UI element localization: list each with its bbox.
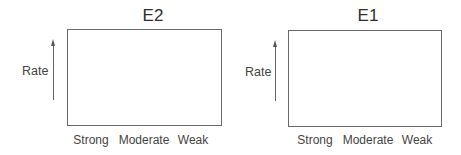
plot-frame <box>288 30 442 127</box>
up-arrow-icon <box>275 46 276 101</box>
y-axis-label: Rate <box>245 65 271 79</box>
x-label-moderate: Moderate <box>343 133 394 147</box>
x-label-moderate: Moderate <box>119 133 170 147</box>
x-label-strong: Strong <box>297 133 332 147</box>
x-label-weak: Weak <box>402 133 432 147</box>
panel-e1: E1 Rate Strong Moderate Weak <box>230 0 460 155</box>
panel-e2: E2 Rate Strong Moderate Weak <box>0 0 230 155</box>
x-label-weak: Weak <box>178 133 208 147</box>
panel-title: E1 <box>358 6 379 26</box>
panel-title: E2 <box>143 6 164 26</box>
up-arrow-icon <box>53 45 54 100</box>
x-label-strong: Strong <box>73 133 108 147</box>
y-axis-label: Rate <box>22 64 48 78</box>
plot-frame <box>67 29 222 126</box>
